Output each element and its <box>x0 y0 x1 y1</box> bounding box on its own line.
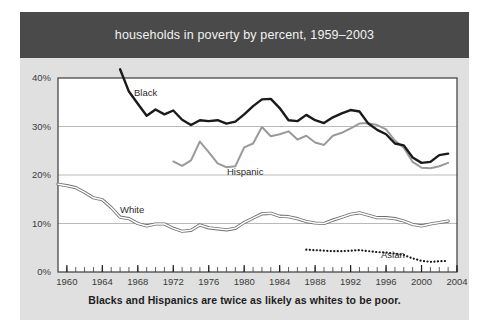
x-axis-tick-label: 1964 <box>92 276 113 287</box>
y-axis-tick-label: 30% <box>32 121 52 132</box>
x-axis-tick-label: 1972 <box>163 276 184 287</box>
y-axis-tick-label: 10% <box>32 218 52 229</box>
series-label-white: White <box>120 204 144 215</box>
y-axis-tick-label: 20% <box>32 169 52 180</box>
x-axis-tick-label: 1976 <box>198 276 219 287</box>
series-label-asian: Asian <box>381 249 405 260</box>
x-axis-tick-label: 1992 <box>340 276 361 287</box>
x-axis-tick-label: 1980 <box>234 276 255 287</box>
x-axis-tick-label: 1988 <box>305 276 326 287</box>
y-axis-tick-label: 40% <box>32 72 52 83</box>
x-axis-tick-label: 2004 <box>446 276 467 287</box>
series-label-black: Black <box>134 87 157 98</box>
x-axis-tick-label: 2000 <box>411 276 432 287</box>
x-axis-tick-label: 1984 <box>269 276 290 287</box>
x-axis-tick-label: 1960 <box>56 276 77 287</box>
chart-caption: Blacks and Hispanics are twice as likely… <box>20 294 469 306</box>
series-label-hispanic: Hispanic <box>227 166 264 177</box>
x-axis-tick-label: 1968 <box>127 276 148 287</box>
x-axis-tick-label: 1996 <box>375 276 396 287</box>
poverty-chart-figure: households in poverty by percent, 1959–2… <box>0 0 488 336</box>
y-axis-tick-label: 0% <box>37 266 51 277</box>
line-chart: 0%10%20%30%40%19601964196819721976198019… <box>0 0 488 336</box>
